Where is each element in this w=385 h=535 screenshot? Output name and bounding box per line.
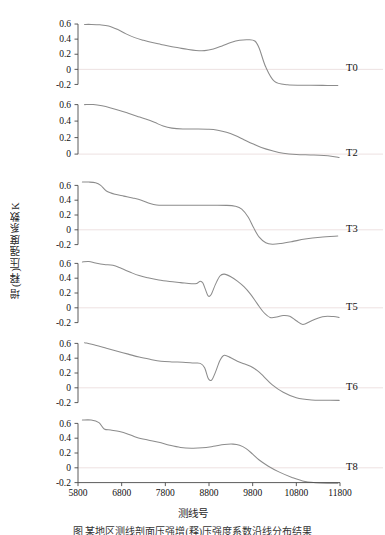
data-curve-t2 bbox=[85, 105, 340, 158]
series-label-t0: T0 bbox=[346, 62, 358, 73]
y-tick-label: -0.2 bbox=[56, 240, 71, 250]
x-tick-label: 6800 bbox=[112, 488, 131, 498]
y-tick-label: 0.4 bbox=[59, 433, 71, 443]
figure-caption: 图 某地区测线剖面压强增(释)压强度系数沿线分布结果 bbox=[0, 525, 385, 535]
data-curve-t8 bbox=[82, 420, 337, 483]
x-tick-label: 9800 bbox=[243, 488, 262, 498]
series-label-t5: T5 bbox=[346, 301, 358, 312]
series-label-t6: T6 bbox=[346, 381, 358, 392]
y-tick-label: -0.2 bbox=[56, 80, 71, 90]
x-axis-title-text: 测线号 bbox=[178, 508, 208, 519]
series-label-t2: T2 bbox=[346, 147, 358, 158]
y-tick-label: 0.4 bbox=[59, 195, 71, 205]
chart-panel-t8: 0.60.40.20-0.258006800780088009800108001… bbox=[0, 416, 385, 516]
y-tick-label: 0.6 bbox=[59, 259, 71, 269]
y-tick-label: 0.4 bbox=[59, 34, 71, 44]
y-tick-label: 0 bbox=[66, 463, 71, 473]
x-tick-label: 7800 bbox=[156, 488, 175, 498]
x-tick-label: 5800 bbox=[69, 488, 88, 498]
y-tick-label: 0.2 bbox=[59, 133, 71, 143]
x-tick-label: 10800 bbox=[284, 488, 308, 498]
data-curve-t5 bbox=[82, 262, 339, 325]
y-tick-label: -0.2 bbox=[56, 318, 71, 328]
y-tick-label: 0.4 bbox=[59, 116, 71, 126]
y-tick-label: 0.2 bbox=[59, 49, 71, 59]
y-tick-label: -0.2 bbox=[56, 398, 71, 408]
data-curve-t6 bbox=[85, 343, 340, 401]
y-tick-label: -0.2 bbox=[56, 478, 71, 488]
y-tick-label: 0 bbox=[66, 225, 71, 235]
y-tick-label: 0.4 bbox=[59, 273, 71, 283]
x-tick-label: 11800 bbox=[328, 488, 352, 498]
y-tick-label: 0.6 bbox=[59, 339, 71, 349]
chart-panel-t3: 0.60.40.20-0.2T3 bbox=[0, 178, 385, 258]
data-curve-t0 bbox=[85, 24, 338, 85]
series-label-t8: T8 bbox=[346, 461, 358, 472]
y-tick-label: 0.2 bbox=[59, 368, 71, 378]
y-tick-label: 0 bbox=[66, 383, 71, 393]
chart-panel-t6: 0.60.40.20-0.2T6 bbox=[0, 336, 385, 416]
y-tick-label: 0.4 bbox=[59, 353, 71, 363]
y-tick-label: 0.6 bbox=[59, 419, 71, 429]
chart-panel-t2: 0.60.40.20T2 bbox=[0, 98, 385, 170]
figure-root: 增(释)压强度系数K 0.60.40.20-0.2T00.60.40.20T20… bbox=[0, 0, 385, 535]
y-tick-label: 0.6 bbox=[59, 19, 71, 29]
x-tick-label: 8800 bbox=[200, 488, 219, 498]
y-tick-label: 0.2 bbox=[59, 288, 71, 298]
chart-panel-t5: 0.60.40.20-0.2T5 bbox=[0, 256, 385, 336]
series-label-t3: T3 bbox=[346, 223, 358, 234]
y-tick-label: 0 bbox=[66, 149, 71, 159]
data-curve-t3 bbox=[82, 182, 337, 244]
y-tick-label: 0 bbox=[66, 65, 71, 75]
y-tick-label: 0.6 bbox=[59, 181, 71, 191]
y-tick-label: 0 bbox=[66, 303, 71, 313]
chart-panel-t0: 0.60.40.20-0.2T0 bbox=[0, 18, 385, 98]
y-tick-label: 0.6 bbox=[59, 100, 71, 110]
x-axis-title: 测线号 bbox=[0, 505, 385, 520]
y-tick-label: 0.2 bbox=[59, 448, 71, 458]
y-tick-label: 0.2 bbox=[59, 210, 71, 220]
